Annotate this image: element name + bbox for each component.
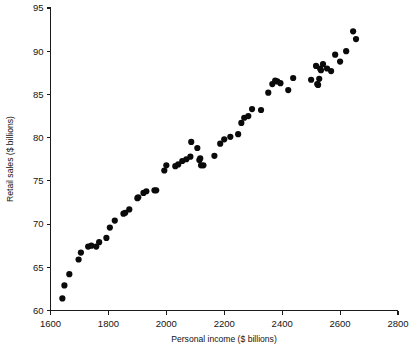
data-point: [265, 90, 271, 96]
data-point: [188, 139, 194, 145]
x-tick-label: 2200: [214, 318, 235, 329]
data-point: [59, 295, 65, 301]
data-point: [66, 271, 72, 277]
data-point: [238, 120, 244, 126]
data-point: [350, 28, 356, 34]
y-tick-label: 80: [33, 132, 44, 143]
data-point: [315, 82, 321, 88]
y-tick-label: 60: [33, 305, 44, 316]
y-tick-label: 90: [33, 46, 44, 57]
data-point: [337, 58, 343, 64]
data-point: [353, 36, 359, 42]
y-tick-label: 75: [33, 175, 44, 186]
data-point: [75, 256, 81, 262]
data-point: [135, 194, 141, 200]
x-tick-label: 2400: [272, 318, 293, 329]
data-point: [285, 87, 291, 93]
data-point: [163, 162, 169, 168]
x-tick-label: 2800: [387, 318, 408, 329]
data-point: [249, 106, 255, 112]
scatter-plot-canvas: 6065707580859095 16001800200022002400260…: [0, 0, 415, 352]
data-point: [143, 188, 149, 194]
data-point: [211, 153, 217, 159]
x-tick-label: 2600: [330, 318, 351, 329]
data-point: [200, 162, 206, 168]
data-point: [153, 187, 159, 193]
data-point: [308, 77, 314, 83]
y-tick-label: 70: [33, 218, 44, 229]
data-point: [221, 136, 227, 142]
data-point: [187, 154, 193, 160]
data-point: [96, 239, 102, 245]
y-tick-label: 65: [33, 262, 44, 273]
data-point: [332, 52, 338, 58]
data-point: [316, 76, 322, 82]
data-point: [245, 113, 251, 119]
data-point: [197, 155, 203, 161]
scatter-plot-figure: 6065707580859095 16001800200022002400260…: [0, 0, 415, 352]
data-point: [126, 206, 132, 212]
x-axis-ticks: 1600180020002200240026002800: [40, 311, 409, 329]
data-points-layer: [59, 28, 359, 301]
x-tick-label: 2000: [156, 318, 177, 329]
x-axis-title: Personal income ($ billions): [171, 334, 277, 344]
data-point: [78, 249, 84, 255]
data-point: [318, 67, 324, 73]
data-point: [328, 68, 334, 74]
x-tick-label: 1600: [40, 318, 61, 329]
y-tick-label: 95: [33, 2, 44, 13]
data-point: [61, 282, 67, 288]
data-point: [290, 75, 296, 81]
data-point: [227, 134, 233, 140]
y-tick-label: 85: [33, 89, 44, 100]
y-axis-title: Retail sales ($ billions): [5, 116, 15, 202]
data-point: [194, 145, 200, 151]
x-tick-label: 1800: [98, 318, 119, 329]
data-point: [258, 107, 264, 113]
data-point: [235, 131, 241, 137]
data-point: [112, 218, 118, 224]
data-point: [103, 235, 109, 241]
data-point: [107, 224, 113, 230]
data-point: [277, 80, 283, 86]
y-axis-ticks: 6065707580859095: [33, 2, 51, 316]
data-point: [343, 48, 349, 54]
